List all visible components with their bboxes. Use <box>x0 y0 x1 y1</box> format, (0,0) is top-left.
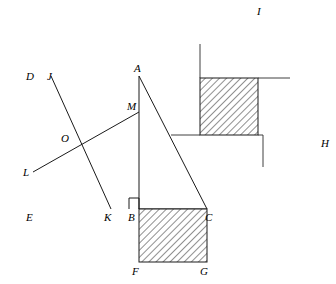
label-G: G <box>200 265 208 277</box>
label-F: F <box>131 265 139 277</box>
label-I: I <box>256 5 262 17</box>
label-D: D <box>25 70 34 82</box>
label-E: E <box>25 211 33 223</box>
label-O: O <box>61 132 69 144</box>
label-A: A <box>133 62 141 74</box>
label-B: B <box>128 211 135 223</box>
hatched-square-inner-upper <box>200 78 258 135</box>
hatched-square-BCGF <box>139 209 207 262</box>
label-K: K <box>103 211 112 223</box>
label-L: L <box>22 166 29 178</box>
label-M: M <box>126 100 137 112</box>
label-C: C <box>205 211 213 223</box>
label-H: H <box>320 137 330 149</box>
geometry-figure: D J A I H M O L E K B C F G <box>0 0 336 284</box>
geometry-canvas: D J A I H M O L E K B C F G <box>0 0 336 284</box>
